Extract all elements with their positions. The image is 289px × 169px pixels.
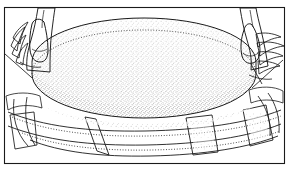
line-art-illustration [0, 0, 289, 169]
illustration-canvas: Hands placing stippled oval form onto ba… [0, 0, 289, 169]
